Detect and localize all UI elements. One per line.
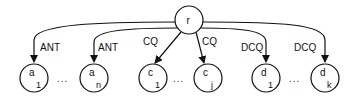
edge-label-dcq-2: DCQ	[294, 42, 316, 53]
node-an-base: a	[89, 67, 95, 78]
node-a1-sub: 1	[36, 80, 41, 90]
node-cj: c j	[194, 64, 222, 92]
edge-label-dcq-1: DCQ	[241, 42, 263, 53]
node-d1: d 1	[252, 64, 280, 92]
root-node: r	[175, 6, 203, 34]
edge-label-cq-2: CQ	[202, 36, 217, 47]
node-an-sub: n	[96, 80, 101, 90]
edge-label-ant-2: ANT	[98, 42, 118, 53]
edge-label-ant-1: ANT	[40, 42, 60, 53]
ellipsis-c: ...	[173, 73, 184, 84]
node-dk: d k	[311, 64, 339, 92]
edge-label-cq-1: CQ	[143, 36, 158, 47]
node-a1-base: a	[29, 67, 35, 78]
node-c1-base: c	[148, 67, 153, 78]
ellipsis-a: ...	[57, 73, 68, 84]
node-d1-base: d	[261, 67, 267, 78]
node-cj-sub: j	[210, 80, 213, 90]
node-d1-sub: 1	[268, 80, 273, 90]
node-a1: a 1	[20, 64, 48, 92]
edge-r-c1	[155, 32, 181, 63]
node-an: a n	[80, 64, 108, 92]
ellipsis-d: ...	[289, 73, 300, 84]
node-dk-base: d	[320, 67, 326, 78]
tree-diagram: ANT ANT CQ CQ DCQ DCQ r a 1 ... a n c 1 …	[0, 0, 359, 102]
node-dk-sub: k	[327, 80, 332, 90]
node-cj-base: c	[203, 67, 208, 78]
node-c1: c 1	[139, 64, 167, 92]
node-c1-sub: 1	[155, 80, 160, 90]
